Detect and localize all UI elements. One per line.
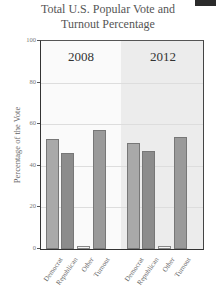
y-tick-label: 80: [22, 78, 36, 85]
title-line-1: Total U.S. Popular Vote and: [0, 2, 216, 17]
bar-2012-other: [158, 246, 171, 249]
bar-2008-republican: [61, 153, 74, 249]
y-tick-label: 20: [22, 202, 36, 209]
y-tick-label: 40: [22, 161, 36, 168]
gridline: [41, 83, 203, 84]
bar-2012-republican: [142, 151, 155, 249]
plot-area: 2008 2012: [40, 40, 204, 250]
y-tick-label: 100: [22, 36, 36, 43]
y-axis-label: Percentage of the Vote: [12, 90, 22, 200]
title-line-2: Turnout Percentage: [0, 17, 216, 32]
panel-label-2008: 2008: [41, 49, 121, 65]
bar-2008-other: [77, 246, 90, 249]
bar-2008-democrat: [46, 139, 59, 249]
y-tick-label: 60: [22, 119, 36, 126]
y-tick-label: 0: [22, 244, 36, 251]
bar-2012-turnout: [174, 137, 187, 249]
bar-2012-democrat: [127, 143, 140, 249]
panel-label-2012: 2012: [123, 49, 203, 65]
bar-2008-turnout: [93, 130, 106, 249]
chart-title: Total U.S. Popular Vote and Turnout Perc…: [0, 2, 216, 32]
gridline: [41, 124, 203, 125]
